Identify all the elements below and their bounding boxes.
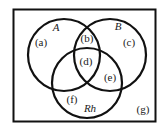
region-e-label: (e) bbox=[104, 72, 116, 83]
venn-diagram: A B Rh (a) (b) (c) (d) (e) (f) (g) bbox=[0, 0, 166, 132]
region-a-label: (a) bbox=[35, 37, 47, 48]
set-a-label: A bbox=[53, 22, 60, 33]
region-d-label: (d) bbox=[80, 56, 93, 67]
region-f-label: (f) bbox=[67, 94, 78, 105]
region-c-label: (c) bbox=[123, 37, 135, 48]
set-b-label: B bbox=[115, 21, 122, 32]
region-b-label: (b) bbox=[81, 33, 94, 44]
region-g-label: (g) bbox=[137, 104, 150, 115]
set-rh-label: Rh bbox=[84, 103, 96, 114]
